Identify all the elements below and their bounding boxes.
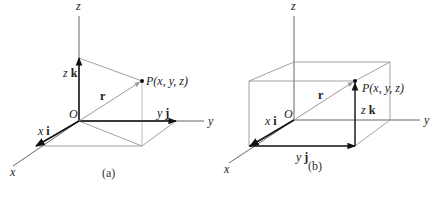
r-vector <box>294 82 353 120</box>
point-p <box>140 79 144 83</box>
panel-a-caption: (a) <box>102 166 115 180</box>
zk-label: zk <box>360 103 376 117</box>
y-axis-label: y <box>207 114 214 128</box>
y-axis-label: y <box>423 113 430 127</box>
guide-line <box>142 121 176 146</box>
xi-label: xi <box>37 124 50 138</box>
yj-label: yj <box>156 106 169 120</box>
origin-label: O <box>69 107 78 121</box>
guide-line <box>79 58 142 81</box>
point-p-label: P(x, y, z) <box>145 74 188 88</box>
point-p <box>353 79 357 83</box>
position-vector-figure: z y x O P(x, y, z) r zk yj xi (a) <box>0 0 438 201</box>
yj-label: yj <box>295 150 308 164</box>
r-label: r <box>318 88 324 102</box>
guide-line <box>79 121 142 146</box>
x-axis-label: x <box>223 162 230 176</box>
point-p-label: P(x, y, z) <box>361 81 404 95</box>
r-vector <box>79 82 140 121</box>
zk-label: zk <box>62 66 78 80</box>
panel-b-caption: (b) <box>308 159 322 173</box>
x-axis-label: x <box>9 165 16 179</box>
origin-label: O <box>284 107 293 121</box>
panel-b: z y x O P(x, y, z) r zk yj xi (b) <box>223 0 430 176</box>
r-label: r <box>100 89 106 103</box>
xi-label: xi <box>264 114 277 128</box>
z-axis-label: z <box>290 0 296 13</box>
z-axis-label: z <box>75 0 81 13</box>
xi-vector <box>250 120 294 146</box>
panel-a: z y x O P(x, y, z) r zk yj xi (a) <box>9 0 214 180</box>
